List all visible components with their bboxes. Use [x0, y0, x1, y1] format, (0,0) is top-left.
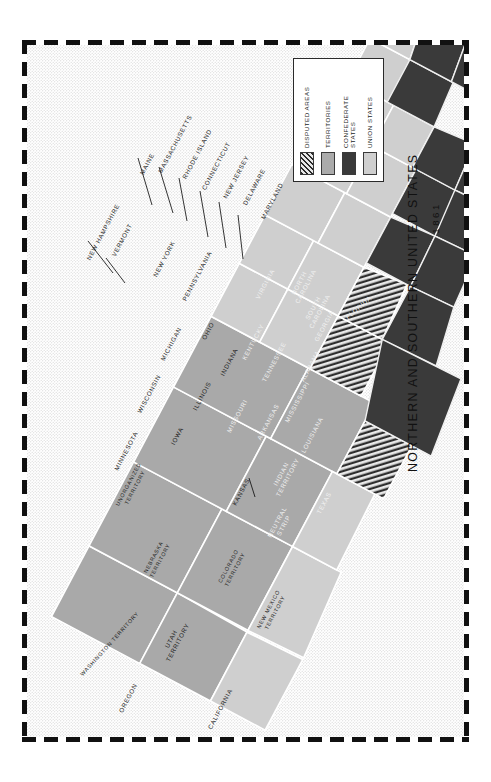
map-title-block: NORTHERN AND SOUTHERN UNITED STATES 1861	[398, 52, 460, 472]
legend-label-territory: TERRITORIES	[324, 65, 331, 148]
frame-corner-bl	[22, 737, 27, 742]
legend-label-union: UNION STATES	[366, 65, 373, 148]
legend-label-confederate: CONFEDERATE STATES	[342, 65, 357, 148]
legend-swatch-union	[363, 152, 377, 175]
map-figure: MAINENEW HAMPSHIREVERMONTMASSACHUSETTSRH…	[0, 0, 491, 782]
frame-bottom-edge	[22, 737, 469, 742]
legend-swatch-territory	[321, 152, 335, 175]
map-title-year: 1861	[430, 202, 441, 234]
frame-corner-br	[464, 737, 469, 742]
legend-item-territory: TERRITORIES	[320, 65, 337, 175]
legend-item-confederate: CONFEDERATE STATES	[341, 65, 358, 175]
map-legend: UNION STATESCONFEDERATE STATESTERRITORIE…	[293, 58, 384, 182]
legend-swatch-disputed	[300, 152, 314, 175]
frame-corner-tr	[464, 40, 469, 45]
frame-right-edge	[464, 40, 469, 742]
legend-label-disputed: DISPUTED AREAS	[303, 65, 310, 148]
legend-swatch-confederate	[342, 152, 356, 175]
legend-item-disputed: DISPUTED AREAS	[299, 65, 316, 175]
legend-item-union: UNION STATES	[362, 65, 379, 175]
map-title: NORTHERN AND SOUTHERN UNITED STATES	[406, 52, 420, 472]
